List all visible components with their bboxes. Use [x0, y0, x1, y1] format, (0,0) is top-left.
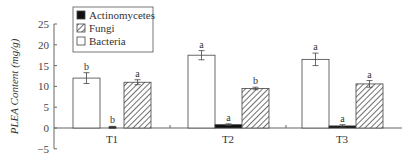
- x-category-label: T1: [106, 133, 118, 145]
- y-axis-label: PLEA Content (mg/g): [8, 38, 21, 135]
- significance-letter: a: [313, 41, 318, 52]
- legend-label-fungi: Fungi: [89, 22, 115, 34]
- bar-bacteria-t2: [188, 55, 215, 128]
- bar-fungi-t2: [242, 88, 269, 128]
- y-tick-label: 0: [44, 122, 50, 134]
- bar-bacteria-t3: [302, 59, 329, 128]
- legend: ActinomycetesFungiBacteria: [73, 7, 155, 52]
- legend-label-bacteria: Bacteria: [89, 35, 126, 47]
- significance-letter: b: [253, 75, 258, 86]
- y-tick-label: −5: [37, 143, 49, 155]
- legend-label-actinomycetes: Actinomycetes: [89, 9, 155, 21]
- x-category-label: T2: [222, 133, 234, 145]
- y-tick-label: 25: [38, 18, 50, 30]
- legend-swatch-bacteria: [77, 37, 85, 45]
- significance-letter: a: [340, 113, 345, 124]
- y-tick-label: 10: [38, 80, 50, 92]
- significance-letter: a: [199, 39, 204, 50]
- significance-letter: a: [367, 69, 372, 80]
- legend-swatch-fungi: [77, 24, 85, 32]
- bar-fungi-t3: [356, 84, 383, 128]
- bar-bacteria-t1: [73, 78, 100, 128]
- legend-swatch-actinomycetes: [77, 11, 85, 19]
- bar-chart: −50510152025PLEA Content (mg/g)T1T2T3 bb…: [0, 0, 420, 160]
- y-tick-label: 5: [44, 101, 50, 113]
- x-category-label: T3: [336, 133, 349, 145]
- significance-letter: b: [110, 114, 115, 125]
- significance-letter: a: [226, 112, 231, 123]
- y-tick-label: 15: [38, 60, 50, 72]
- significance-letter: b: [84, 61, 89, 72]
- bar-fungi-t1: [124, 82, 151, 128]
- y-tick-label: 20: [38, 39, 50, 51]
- significance-letter: a: [135, 68, 140, 79]
